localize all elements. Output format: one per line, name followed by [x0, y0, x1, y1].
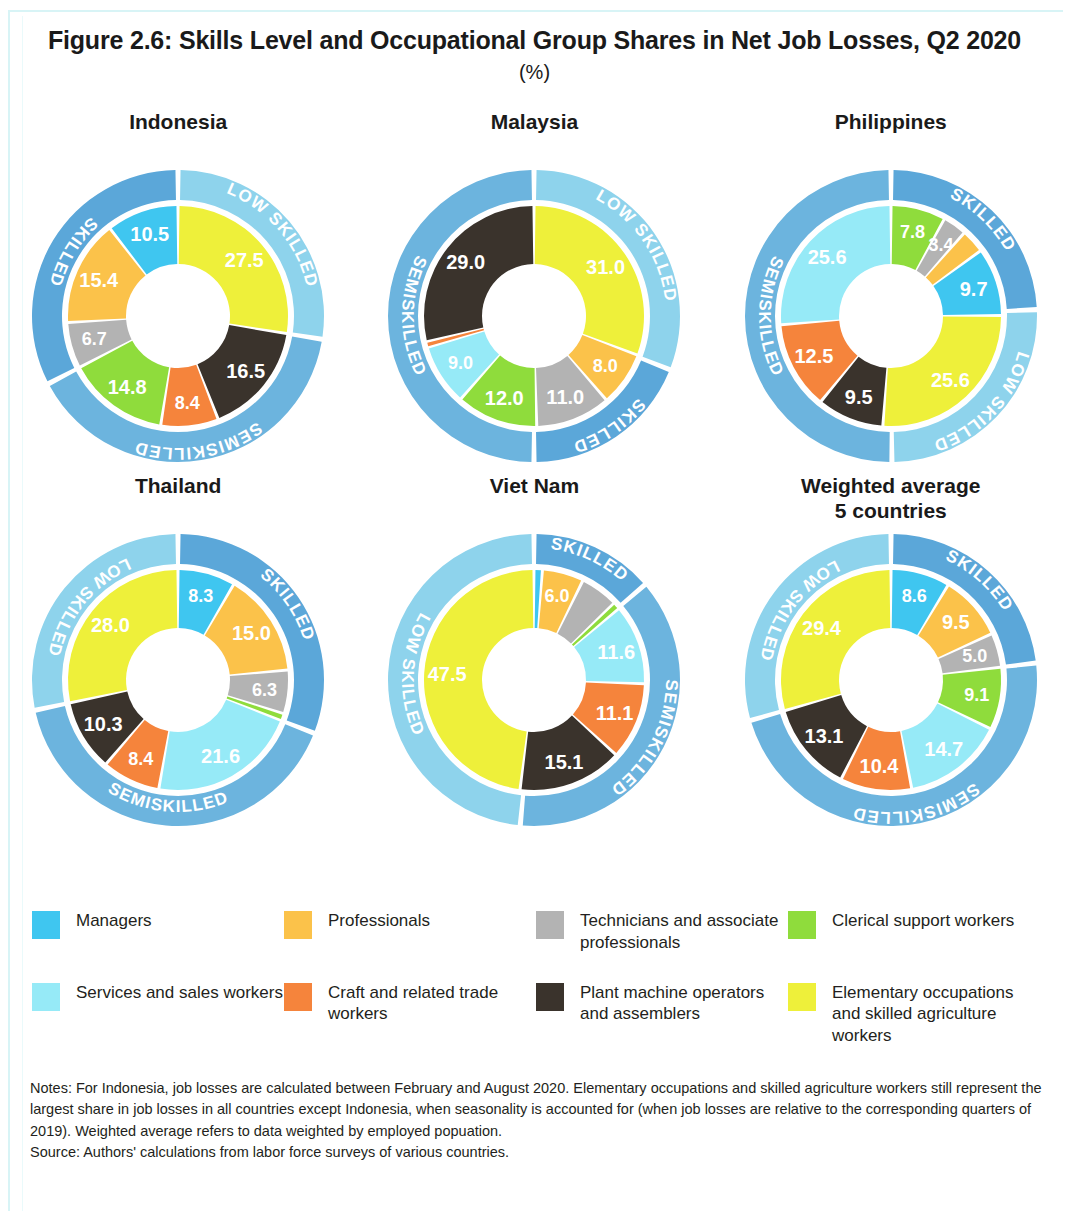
chart-row: ThailandSKILLEDSEMISKILLEDLOW SKILLED8.3…: [0, 474, 1069, 838]
chart-title-line: Weighted average: [801, 474, 980, 499]
figure-title: Figure 2.6: Skills Level and Occupationa…: [0, 26, 1069, 55]
figure-subtitle: (%): [0, 61, 1069, 84]
segment-value-elementary: 47.5: [428, 663, 467, 685]
segment-value-technicians: 6.3: [252, 680, 277, 700]
segment-value-professionals: 9.5: [942, 611, 970, 633]
segment-value-craft: 8.4: [128, 749, 153, 769]
chart-title: Malaysia: [491, 110, 579, 164]
segment-value-elementary: 25.6: [931, 369, 970, 391]
chart-title-line: Malaysia: [491, 110, 579, 135]
legend-swatch-services: [32, 983, 60, 1011]
legend-item-managers[interactable]: Managers: [32, 910, 284, 954]
chart-title-line: Viet Nam: [490, 474, 580, 499]
chart-cell-malaysia: MalaysiaLOW SKILLEDSKILLEDSEMISKILLED31.…: [356, 110, 712, 474]
donut-indonesia: LOW SKILLEDSEMISKILLEDSKILLED27.516.58.4…: [18, 164, 338, 474]
chart-title-line: 5 countries: [801, 499, 980, 524]
donut-holder: SKILLEDSEMISKILLEDLOW SKILLED8.315.06.32…: [18, 528, 338, 838]
legend-swatch-professionals: [284, 911, 312, 939]
segment-value-managers: 8.6: [901, 586, 926, 606]
segment-value-plant: 10.3: [84, 713, 123, 735]
segment-value-plant: 9.5: [845, 386, 873, 408]
donut-chart-grid: IndonesiaLOW SKILLEDSEMISKILLEDSKILLED27…: [0, 110, 1069, 838]
segment-value-craft: 12.5: [794, 345, 833, 367]
legend-swatch-elementary: [788, 983, 816, 1011]
legend-item-plant[interactable]: Plant machine operators and assemblers: [536, 982, 788, 1047]
chart-cell-indonesia: IndonesiaLOW SKILLEDSEMISKILLEDSKILLED27…: [0, 110, 356, 474]
legend-row: Services and sales workersCraft and rela…: [32, 982, 1042, 1047]
legend-item-professionals[interactable]: Professionals: [284, 910, 536, 954]
figure-header: Figure 2.6: Skills Level and Occupationa…: [0, 26, 1069, 84]
chart-title-line: Philippines: [835, 110, 947, 135]
segment-value-clerical: 7.8: [900, 222, 925, 242]
segment-value-clerical: 14.8: [108, 376, 147, 398]
chart-title-line: Thailand: [135, 474, 221, 499]
donut-malaysia: LOW SKILLEDSKILLEDSEMISKILLED31.08.011.0…: [374, 164, 694, 474]
segment-value-professionals: 15.0: [232, 622, 271, 644]
legend-label-plant: Plant machine operators and assemblers: [580, 982, 788, 1026]
donut-holder: SKILLEDSEMISKILLEDLOW SKILLED8.69.55.09.…: [731, 528, 1051, 838]
legend-label-technicians: Technicians and associate professionals: [580, 910, 788, 954]
chart-cell-thailand: ThailandSKILLEDSEMISKILLEDLOW SKILLED8.3…: [0, 474, 356, 838]
segment-value-managers: 10.5: [130, 223, 169, 245]
segment-value-elementary: 31.0: [587, 256, 626, 278]
legend-label-elementary: Elementary occupations and skilled agric…: [832, 982, 1040, 1047]
donut-viet-nam: SKILLEDSEMISKILLEDLOW SKILLED6.011.611.1…: [374, 528, 694, 838]
segment-value-professionals: 8.0: [593, 356, 618, 376]
segment-value-services: 21.6: [201, 745, 240, 767]
legend-item-elementary[interactable]: Elementary occupations and skilled agric…: [788, 982, 1040, 1047]
donut-holder: LOW SKILLEDSEMISKILLEDSKILLED27.516.58.4…: [18, 164, 338, 474]
segment-value-professionals: 6.0: [545, 586, 570, 606]
chart-row: IndonesiaLOW SKILLEDSEMISKILLEDSKILLED27…: [0, 110, 1069, 474]
donut-thailand: SKILLEDSEMISKILLEDLOW SKILLED8.315.06.32…: [18, 528, 338, 838]
segment-value-plant: 13.1: [804, 725, 843, 747]
legend-label-services: Services and sales workers: [76, 982, 283, 1004]
segment-value-craft: 11.1: [596, 702, 634, 724]
segment-value-technicians: 5.0: [962, 646, 987, 666]
chart-cell-philippines: PhilippinesSKILLEDLOW SKILLEDSEMISKILLED…: [713, 110, 1069, 474]
segment-value-craft: 10.4: [859, 755, 899, 777]
page-edge-top: [8, 10, 1063, 12]
segment-value-professionals: 15.4: [79, 269, 119, 291]
segment-value-elementary: 28.0: [91, 614, 130, 636]
segment-value-elementary: 27.5: [225, 249, 264, 271]
segment-value-plant: 16.5: [226, 360, 265, 382]
segment-value-services: 9.0: [449, 353, 474, 373]
segment-value-services: 14.7: [924, 738, 963, 760]
segment-value-clerical: 9.1: [964, 685, 989, 705]
donut-weighted-average-5-countries: SKILLEDSEMISKILLEDLOW SKILLED8.69.55.09.…: [731, 528, 1051, 838]
legend-swatch-plant: [536, 983, 564, 1011]
chart-cell-weighted-average-5-countries: Weighted average5 countriesSKILLEDSEMISK…: [713, 474, 1069, 838]
segment-value-technicians: 11.0: [547, 386, 585, 408]
chart-title: Weighted average5 countries: [801, 474, 980, 528]
segment-value-plant: 15.1: [545, 751, 584, 773]
legend-row: ManagersProfessionalsTechnicians and ass…: [32, 910, 1042, 954]
legend-label-managers: Managers: [76, 910, 152, 932]
legend-swatch-technicians: [536, 911, 564, 939]
legend-label-craft: Craft and related trade workers: [328, 982, 536, 1026]
legend-item-services[interactable]: Services and sales workers: [32, 982, 284, 1047]
legend-item-craft[interactable]: Craft and related trade workers: [284, 982, 536, 1047]
chart-title-line: Indonesia: [129, 110, 227, 135]
legend-item-clerical[interactable]: Clerical support workers: [788, 910, 1040, 954]
segment-value-clerical: 12.0: [485, 387, 524, 409]
segment-value-managers: 8.3: [188, 586, 213, 606]
notes-block: Notes: For Indonesia, job losses are cal…: [30, 1078, 1045, 1164]
chart-title: Viet Nam: [490, 474, 580, 528]
chart-cell-viet-nam: Viet NamSKILLEDSEMISKILLEDLOW SKILLED6.0…: [356, 474, 712, 838]
segment-value-plant: 29.0: [447, 251, 486, 273]
segment-value-elementary: 29.4: [802, 617, 842, 639]
source-text: Source: Authors' calculations from labor…: [30, 1142, 1045, 1163]
legend-swatch-managers: [32, 911, 60, 939]
chart-title: Indonesia: [129, 110, 227, 164]
chart-title: Thailand: [135, 474, 221, 528]
legend: ManagersProfessionalsTechnicians and ass…: [32, 910, 1042, 1075]
segment-value-services: 25.6: [807, 246, 846, 268]
segment-value-managers: 9.7: [959, 278, 987, 300]
chart-title: Philippines: [835, 110, 947, 164]
donut-holder: SKILLEDLOW SKILLEDSEMISKILLED7.83.49.725…: [731, 164, 1051, 474]
legend-item-technicians[interactable]: Technicians and associate professionals: [536, 910, 788, 954]
donut-holder: SKILLEDSEMISKILLEDLOW SKILLED6.011.611.1…: [374, 528, 694, 838]
donut-holder: LOW SKILLEDSKILLEDSEMISKILLED31.08.011.0…: [374, 164, 694, 474]
donut-philippines: SKILLEDLOW SKILLEDSEMISKILLED7.83.49.725…: [731, 164, 1051, 474]
legend-swatch-clerical: [788, 911, 816, 939]
